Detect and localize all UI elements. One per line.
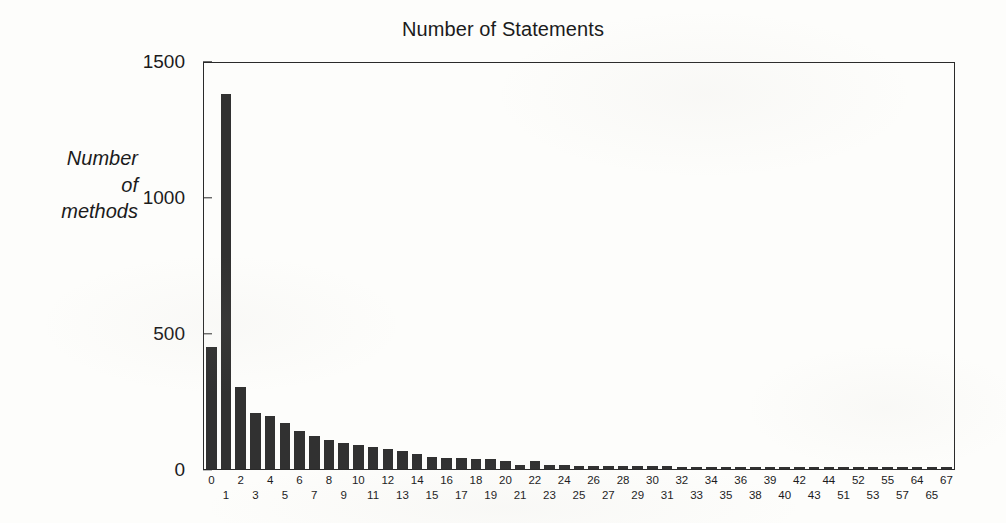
x-tick-label: 65 [925,489,938,501]
x-tick-label: 5 [282,489,288,501]
x-tick-slot: 28 [616,472,631,518]
bar-slot [307,63,322,469]
bar-slot [410,63,425,469]
x-tick-slot: 2 [233,472,248,518]
bar [882,467,893,469]
bar [794,467,805,469]
x-tick-label: 43 [808,489,821,501]
bar [544,465,555,469]
x-tick-slot: 23 [542,472,557,518]
bar-slot [807,63,822,469]
bar [706,467,717,469]
bar-slot [395,63,410,469]
bar [368,447,379,469]
x-tick-label: 6 [296,474,302,486]
x-tick-slot: 33 [689,472,704,518]
bar-slot [572,63,587,469]
bar-slot [836,63,851,469]
x-tick-slot: 22 [527,472,542,518]
x-tick-label: 2 [238,474,244,486]
bar-slot [719,63,734,469]
x-tick-slot: 42 [792,472,807,518]
bar-slot [233,63,248,469]
x-tick-label: 44 [822,474,835,486]
y-tick-label: 1000 [0,187,203,209]
bar [324,440,335,469]
x-tick-slot: 21 [513,472,528,518]
x-tick-label: 21 [514,489,527,501]
x-tick-label: 40 [778,489,791,501]
bar-slot [689,63,704,469]
bar [280,423,291,469]
x-tick-slot: 25 [572,472,587,518]
bar [515,465,526,469]
bar-slot [586,63,601,469]
x-axis-labels: 0123456789101112131415161718192021222324… [204,472,954,518]
x-tick-label: 67 [940,474,953,486]
bar [588,466,599,469]
x-tick-label: 13 [396,489,409,501]
x-tick-slot: 17 [454,472,469,518]
bar-slot [380,63,395,469]
x-tick-slot: 20 [498,472,513,518]
bar [603,466,614,469]
bar [574,466,585,469]
x-tick-label: 10 [352,474,365,486]
bar [383,449,394,469]
bar-slot [542,63,557,469]
x-tick-label: 7 [311,489,317,501]
bar-slot [704,63,719,469]
x-tick-label: 16 [440,474,453,486]
x-tick-slot: 30 [645,472,660,518]
x-tick-label: 22 [528,474,541,486]
x-tick-slot: 9 [336,472,351,518]
x-tick-label: 53 [867,489,880,501]
x-tick-slot: 51 [836,472,851,518]
x-tick-label: 32 [675,474,688,486]
x-tick-slot: 39 [763,472,778,518]
x-tick-label: 29 [631,489,644,501]
x-tick-label: 36 [734,474,747,486]
bar-slot [660,63,675,469]
bar [779,467,790,469]
bar [530,461,541,469]
bar-slot [527,63,542,469]
bar [427,457,438,469]
bar-slot [366,63,381,469]
bar [294,431,305,469]
x-tick-label: 3 [252,489,258,501]
bar [206,347,217,469]
x-tick-slot: 31 [660,472,675,518]
bar [456,458,467,469]
x-tick-slot: 12 [380,472,395,518]
x-tick-slot: 44 [822,472,837,518]
x-tick-slot: 6 [292,472,307,518]
bar [632,466,643,469]
bar [721,467,732,469]
bar-slot [630,63,645,469]
bar-slot [351,63,366,469]
x-tick-slot: 35 [719,472,734,518]
bar [735,467,746,469]
x-tick-label: 42 [793,474,806,486]
bar-slot [292,63,307,469]
x-tick-label: 52 [852,474,865,486]
bar-slot [777,63,792,469]
x-tick-label: 38 [749,489,762,501]
x-tick-label: 27 [602,489,615,501]
bar [559,465,570,469]
bar [927,467,938,469]
x-tick-slot: 26 [586,472,601,518]
bar-slot [866,63,881,469]
bar [662,466,673,469]
x-tick-label: 20 [499,474,512,486]
bar-slot [439,63,454,469]
x-tick-label: 11 [367,489,379,501]
bar [912,467,923,469]
y-axis: 050010001500 [0,0,203,523]
bar-series [204,63,954,469]
bar [309,436,320,469]
x-tick-slot: 18 [469,472,484,518]
x-tick-label: 17 [455,489,468,501]
y-tick-label: 500 [0,323,203,345]
